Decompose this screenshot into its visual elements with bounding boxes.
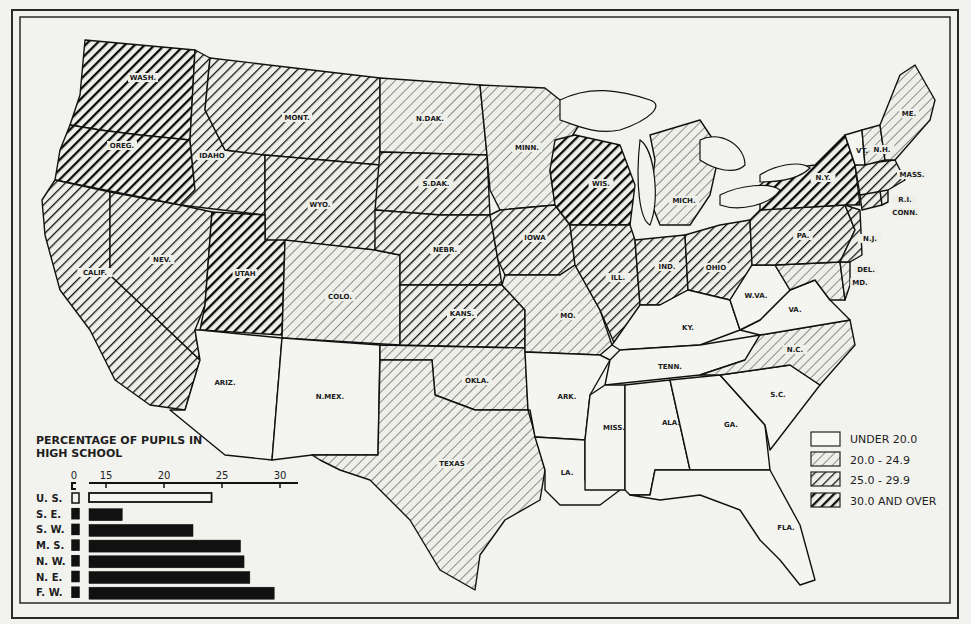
state-label: ILL. [611,274,625,282]
state-label: OHIO [706,264,726,272]
state-label: WIS. [592,180,610,188]
state-label: MICH. [672,197,695,205]
bar-row-label: F. W. [36,587,63,598]
state-wash [70,40,195,140]
state-label: UTAH [234,270,255,278]
state-label: COLO. [328,293,352,301]
bar-row-label: S. E. [36,509,61,520]
bar-fw [89,587,274,599]
state-label: OKLA. [465,377,489,385]
state-label: W.VA. [745,292,768,300]
bar-ms [89,540,241,552]
bar-row-label: M. S. [36,540,64,551]
state-label: N.Y. [815,174,830,182]
state-label: MONT. [284,114,309,122]
state-miss [585,385,625,490]
x-tick-label: 30 [274,470,287,481]
state-label: IND. [659,263,676,271]
state-label: PA. [797,232,810,240]
state-label: IDAHO [199,152,225,160]
bar-stub [72,556,79,566]
state-label: ME. [902,110,916,118]
svg-text:UNDER 20.0: UNDER 20.0 [850,433,917,446]
state-label: LA. [561,469,574,477]
bar-stub [72,524,79,534]
bar-us [89,493,212,502]
state-label: MASS. [900,171,925,179]
state-label: TEXAS [439,460,464,468]
svg-text:20.0 - 24.9: 20.0 - 24.9 [850,454,910,467]
bar-row-label: U. S. [36,493,62,504]
svg-text:25.0 - 29.9: 25.0 - 29.9 [850,474,910,487]
state-label: DEL. [857,266,875,274]
state-label: CALIF. [83,269,107,277]
state-label: WASH. [130,74,156,82]
bar-row-label: N. E. [36,572,62,583]
bar-nw [89,556,244,568]
state-label: MD. [852,279,867,287]
state-label: WYO. [310,201,331,209]
state-label: N.DAK. [416,115,444,123]
svg-text:PERCENTAGE OF PUPILS IN: PERCENTAGE OF PUPILS IN [36,434,202,447]
state-label: R.I. [898,196,911,204]
state-label: MINN. [515,144,539,152]
bar-stub [72,540,79,550]
legend-item-25-29: 25.0 - 29.9 [811,472,910,487]
state-label: N.MEX. [316,393,344,401]
state-label: FLA. [777,524,794,532]
bar-row-label: S. W. [36,524,65,535]
bar-stub [72,572,79,582]
x-tick-label: 25 [216,470,229,481]
state-label: OREG. [110,142,135,150]
state-label: NEV. [153,256,171,264]
state-label: KANS. [450,310,474,318]
bar-ne [89,572,250,584]
state-label: VA. [788,306,801,314]
state-label: CONN. [892,209,917,217]
state-label: GA. [724,421,738,429]
x-tick-label: 20 [158,470,171,481]
bar-row-label: N. W. [36,556,66,567]
bar-sw [89,524,193,536]
state-label: KY. [682,324,694,332]
state-label: VT. [856,147,868,155]
state-label: S.C. [770,391,786,399]
state-label: ALA. [662,419,680,427]
state-label: N.J. [863,235,877,243]
legend-item-20-24: 20.0 - 24.9 [811,452,910,467]
state-label: MISS. [603,424,625,432]
legend-item-under-20: UNDER 20.0 [811,432,917,446]
svg-text:HIGH SCHOOL: HIGH SCHOOL [36,447,122,460]
state-ri [880,190,888,205]
state-label: ARK. [558,393,577,401]
bar-stub [72,587,79,597]
state-label: IOWA [524,234,546,242]
state-label: TENN. [658,363,682,371]
state-label: ARIZ. [214,379,235,387]
bar-stub [72,509,79,519]
legend-item-30-plus: 30.0 AND OVER [811,493,937,508]
state-label: N.H. [873,146,890,154]
x-tick-label: 15 [100,470,113,481]
us-high-school-map: WASH.OREG.CALIF.IDAHONEV.MONT.WYO.UTAHCO… [0,0,971,624]
svg-text:30.0 AND OVER: 30.0 AND OVER [850,495,937,508]
bar-se [89,509,122,521]
state-label: NEBR. [433,246,457,254]
state-label: S.DAK. [422,180,449,188]
x-tick-label: 0 [71,470,77,481]
state-label: MO. [560,312,575,320]
state-label: N.C. [787,346,803,354]
